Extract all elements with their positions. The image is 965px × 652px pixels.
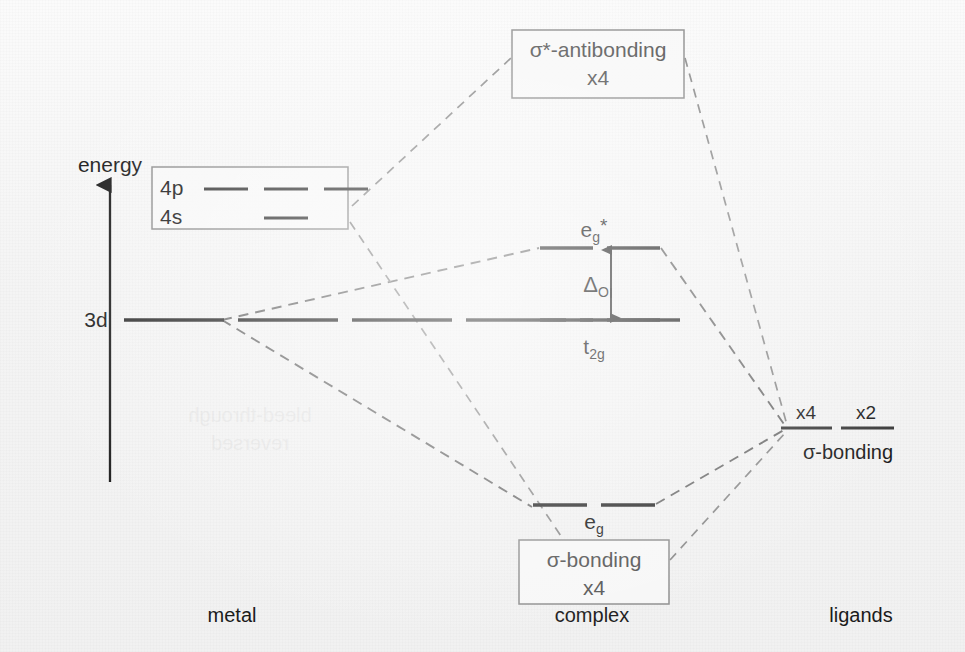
ghost-text: reversed (211, 432, 289, 454)
column-label-complex: complex (555, 604, 629, 626)
ghost-text: bleed-through (188, 404, 311, 426)
ligand-level-count: x2 (856, 402, 876, 423)
complex-levels-layer: eg*t2geg (533, 215, 660, 537)
correlation-line (670, 432, 786, 560)
correlation-line (685, 58, 787, 425)
figure-canvas: bleed-throughreversed energy 3d eg*t2geg… (0, 0, 965, 652)
column-label-metal: metal (208, 604, 257, 626)
sigma-antibonding-box-line2: x4 (587, 66, 610, 89)
correlation-line (350, 222, 563, 539)
ligand-level-count: x4 (796, 402, 817, 423)
splitting-annotation: ΔO (583, 250, 611, 318)
metal-orbital-label-4s: 4s (160, 205, 182, 228)
mo-diagram-svg: bleed-throughreversed energy 3d eg*t2geg… (0, 0, 965, 652)
ligand-levels-layer: x4x2σ-bonding (781, 402, 894, 463)
boxes-layer: 4p4sσ*-antibondingx4σ-bondingx4 (152, 30, 684, 604)
complex-level-label-eg-star: eg* (581, 215, 608, 245)
energy-axis-label: energy (78, 153, 143, 176)
complex-level-label-eg-bonding: eg (584, 510, 603, 537)
ghost-bleedthrough-layer: bleed-throughreversed (188, 404, 311, 454)
complex-level-label-t2g: t2g (583, 335, 604, 362)
metal-orbital-label-4p: 4p (160, 176, 183, 199)
correlation-line (656, 430, 784, 504)
column-labels: metalcomplexligands (208, 604, 893, 626)
correlation-line (222, 248, 539, 320)
metal-3d-label: 3d (84, 308, 107, 331)
column-label-ligands: ligands (829, 604, 892, 626)
correlation-lines-layer (222, 58, 787, 560)
sigma-bonding-box-line2: x4 (583, 576, 606, 599)
correlation-line (661, 248, 786, 427)
splitting-label: ΔO (583, 272, 609, 300)
sigma-antibonding-box-line1: σ*-antibonding (530, 38, 667, 61)
ligand-group-label: σ-bonding (803, 441, 893, 463)
sigma-bonding-box-line1: σ-bonding (547, 548, 642, 571)
correlation-line (352, 58, 511, 206)
